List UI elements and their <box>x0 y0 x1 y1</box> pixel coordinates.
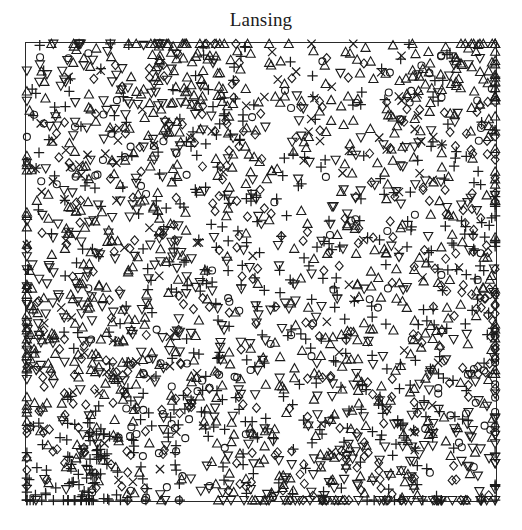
figure-container: Lansing <box>0 0 522 530</box>
plot-frame <box>25 42 497 502</box>
page-title: Lansing <box>0 8 522 32</box>
